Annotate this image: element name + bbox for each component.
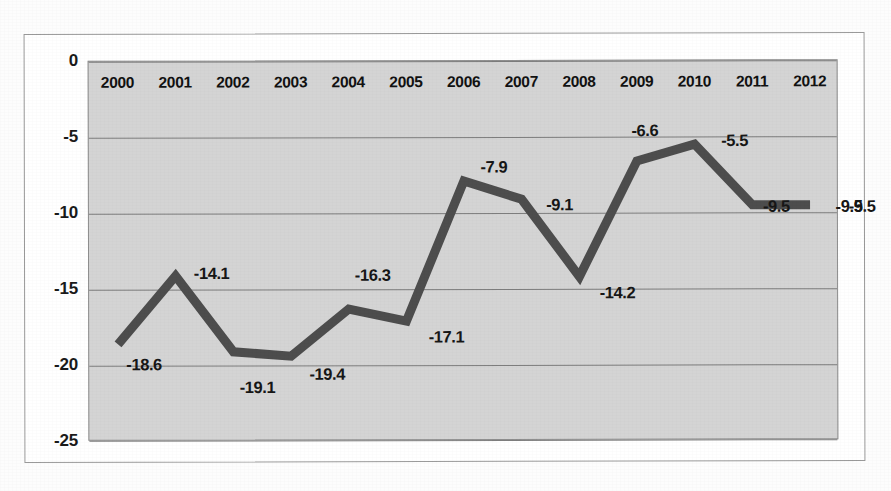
chart-screenshot: 0-5-10-15-20-25 200020012002200320042005… bbox=[0, 0, 891, 491]
y-axis-tick-label: -20 bbox=[20, 356, 78, 373]
x-axis-tick-label: 2012 bbox=[793, 72, 826, 90]
x-axis-tick-label: 2004 bbox=[332, 73, 365, 91]
outside-value-annotation: -9.5 bbox=[836, 197, 863, 216]
data-line-svg bbox=[89, 60, 840, 442]
x-axis-tick-label: 2007 bbox=[505, 73, 538, 91]
data-point-label: -14.1 bbox=[194, 264, 230, 283]
y-axis-tick-label: -25 bbox=[20, 432, 78, 449]
data-point-label: -14.2 bbox=[600, 283, 636, 302]
data-point-label: -9.1 bbox=[546, 196, 573, 215]
x-axis: 2000200120022003200420052006200720082009… bbox=[89, 72, 837, 100]
y-axis-tick-label: -10 bbox=[20, 204, 78, 221]
x-axis-tick-label: 2008 bbox=[562, 73, 595, 91]
data-point-label: -17.1 bbox=[429, 327, 465, 346]
data-point-label: -19.4 bbox=[309, 365, 345, 384]
data-point-label: -6.6 bbox=[631, 121, 658, 140]
data-point-label: -16.3 bbox=[355, 265, 391, 284]
y-axis-tick-label: -5 bbox=[20, 128, 78, 145]
x-axis-tick-label: 2009 bbox=[620, 73, 653, 91]
plot-area: 2000200120022003200420052006200720082009… bbox=[88, 59, 839, 441]
x-axis-tick-label: 2010 bbox=[678, 72, 711, 90]
data-point-label: -9.5 bbox=[763, 197, 790, 216]
x-axis-tick-label: 2000 bbox=[101, 74, 134, 92]
x-axis-tick-label: 2002 bbox=[216, 73, 249, 91]
y-axis-tick-label: 0 bbox=[20, 52, 78, 69]
x-axis-tick-label: 2003 bbox=[274, 73, 307, 91]
data-line bbox=[118, 144, 811, 357]
x-axis-tick-label: 2011 bbox=[736, 72, 768, 90]
data-point-label: -5.5 bbox=[721, 130, 748, 149]
y-axis-tick-label: -15 bbox=[20, 280, 78, 297]
x-axis-tick-label: 2001 bbox=[159, 74, 192, 92]
data-point-label: -18.6 bbox=[126, 355, 162, 374]
data-point-label: -7.9 bbox=[480, 157, 507, 176]
x-axis-tick-label: 2006 bbox=[447, 73, 480, 91]
y-axis: 0-5-10-15-20-25 bbox=[16, 60, 78, 440]
data-point-label: -19.1 bbox=[240, 378, 276, 397]
x-axis-tick-label: 2005 bbox=[389, 73, 422, 91]
